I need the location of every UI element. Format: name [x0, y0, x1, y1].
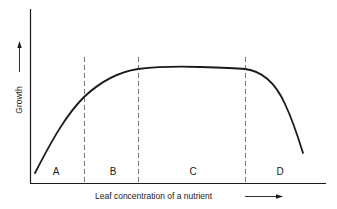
- zone-label-d: D: [276, 166, 283, 177]
- y-axis-arrow-icon: [17, 41, 21, 72]
- zone-label-a: A: [53, 166, 60, 177]
- x-axis-arrow-icon: [245, 194, 283, 199]
- zone-label-b: B: [110, 166, 117, 177]
- y-axis-label: Growth: [14, 86, 24, 114]
- zone-label-c: C: [189, 166, 196, 177]
- x-axis-label: Leaf concentration of a nutrient: [95, 191, 213, 201]
- growth-curve: [35, 67, 303, 173]
- growth-response-diagram: A B C D Leaf concentration of a nutrient…: [0, 0, 337, 209]
- diagram-canvas: A B C D Leaf concentration of a nutrient…: [0, 0, 337, 209]
